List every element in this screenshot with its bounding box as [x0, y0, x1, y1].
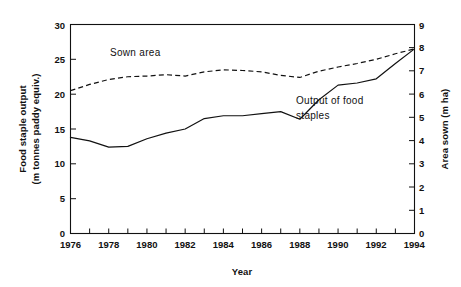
y-tick-label-25: 25 — [54, 54, 65, 65]
y-tick-label-30: 30 — [54, 20, 65, 31]
series-annotation-sown-area: Sown area — [110, 47, 161, 58]
y2-tick-label-9: 9 — [419, 20, 424, 31]
y2-tick-label-4: 4 — [419, 135, 425, 146]
y2-tick-label-0: 0 — [419, 228, 424, 239]
chart-svg: 0 5 10 15 20 25 30 0 1 2 — [0, 0, 461, 287]
series-annotation-food-staples-line2: staples — [296, 110, 330, 121]
y2-tick-label-7: 7 — [419, 65, 424, 76]
x-axis-labels: 1976 1978 1980 1982 1984 1986 1988 1990 … — [60, 239, 426, 250]
y-tick-label-5: 5 — [60, 193, 66, 204]
y2-tick-label-2: 2 — [419, 182, 424, 193]
y-axis-left-ticks — [71, 25, 77, 234]
y-tick-label-10: 10 — [54, 158, 65, 169]
x-tick-label-1982: 1982 — [175, 239, 196, 250]
y2-tick-label-3: 3 — [419, 158, 424, 169]
x-tick-label-1984: 1984 — [213, 239, 235, 250]
y-tick-label-20: 20 — [54, 89, 65, 100]
y-axis-left: 0 5 10 15 20 25 30 — [54, 20, 76, 239]
y2-tick-label-1: 1 — [419, 205, 425, 216]
y2-tick-label-6: 6 — [419, 89, 424, 100]
series-annotation-food-staples-line1: Output of food — [296, 95, 364, 106]
x-tick-label-1980: 1980 — [136, 239, 157, 250]
y2-axis-title: Area sown (m ha) — [439, 89, 450, 170]
x-tick-label-1976: 1976 — [60, 239, 81, 250]
x-tick-label-1990: 1990 — [327, 239, 348, 250]
x-tick-label-1988: 1988 — [289, 239, 310, 250]
x-tick-label-1994: 1994 — [404, 239, 426, 250]
y-axis-right: 0 1 2 3 4 5 6 7 8 9 — [409, 20, 425, 239]
chart-figure: 0 5 10 15 20 25 30 0 1 2 — [0, 0, 461, 287]
y-axis-title-line1: Food staple output — [17, 85, 28, 173]
x-axis-title: Year — [232, 266, 253, 277]
y2-tick-label-5: 5 — [419, 112, 425, 123]
y-axis-title-line2: (m tonnes paddy equiv.) — [30, 74, 41, 185]
y-tick-label-0: 0 — [60, 228, 65, 239]
y-tick-label-15: 15 — [54, 124, 65, 135]
x-axis-ticks — [71, 229, 415, 234]
x-tick-label-1986: 1986 — [251, 239, 272, 250]
y-axis-right-ticks — [409, 25, 415, 234]
x-tick-label-1992: 1992 — [366, 239, 387, 250]
x-tick-label-1978: 1978 — [98, 239, 119, 250]
y2-tick-label-8: 8 — [419, 42, 424, 53]
